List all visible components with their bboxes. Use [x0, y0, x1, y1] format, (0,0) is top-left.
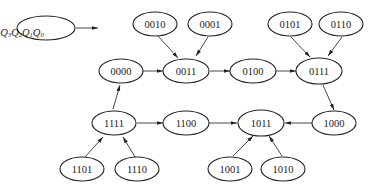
state-node-0010: 0010	[133, 12, 177, 36]
svg-text:0011: 0011	[176, 66, 197, 77]
state-node-0101: 0101	[268, 12, 312, 36]
edge-0001-0011	[196, 37, 208, 56]
state-node-1101: 1101	[60, 157, 104, 181]
svg-text:0001: 0001	[200, 19, 221, 30]
state-node-0100: 0100	[230, 59, 276, 83]
svg-text:1101: 1101	[72, 164, 93, 175]
svg-text:1010: 1010	[273, 164, 294, 175]
state-diagram: Q3Q2Q1Q0 0010 0001 0101 0110 0000 0011 0…	[0, 0, 378, 196]
state-node-1100: 1100	[163, 111, 209, 135]
edge-1110-1111	[123, 137, 135, 157]
edge-0111-1000	[323, 85, 334, 110]
svg-text:1111: 1111	[104, 118, 124, 129]
state-node-1110: 1110	[115, 157, 159, 181]
svg-text:0010: 0010	[145, 19, 166, 30]
edge-0110-0111	[328, 37, 342, 56]
svg-text:0101: 0101	[280, 19, 301, 30]
state-node-1001: 1001	[208, 157, 252, 181]
svg-text:0111: 0111	[309, 66, 329, 77]
state-node-1111: 1111	[92, 111, 136, 135]
state-node-0000: 0000	[99, 59, 143, 83]
edge-0010-0011	[158, 36, 178, 58]
state-node-0111: 0111	[296, 58, 342, 84]
state-node-1011: 1011	[238, 110, 284, 136]
svg-text:0100: 0100	[243, 66, 264, 77]
edge-0101-0111	[291, 37, 310, 57]
state-node-1000: 1000	[312, 111, 356, 135]
edge-1010-1011	[269, 136, 282, 156]
svg-text:0000: 0000	[111, 66, 132, 77]
svg-text:1000: 1000	[324, 118, 345, 129]
svg-text:1110: 1110	[127, 164, 147, 175]
svg-text:1100: 1100	[176, 118, 197, 129]
legend-node: Q3Q2Q1Q0	[0, 16, 75, 40]
edge-1111-0000	[113, 85, 120, 109]
edge-1001-1011	[233, 136, 253, 156]
edge-1101-1111	[85, 137, 103, 157]
state-node-0011: 0011	[163, 59, 209, 83]
legend-label: Q3Q2Q1Q0	[0, 27, 44, 38]
state-node-0110: 0110	[319, 12, 363, 36]
svg-text:0110: 0110	[331, 19, 352, 30]
svg-text:1011: 1011	[251, 118, 272, 129]
svg-text:1001: 1001	[220, 164, 241, 175]
state-node-0001: 0001	[188, 12, 232, 36]
edges	[76, 28, 342, 157]
state-node-1010: 1010	[261, 157, 305, 181]
